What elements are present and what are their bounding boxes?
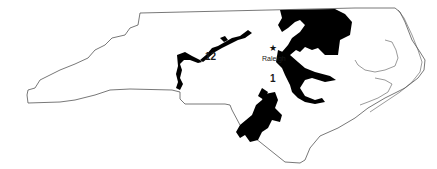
district-1-label: 1 — [270, 74, 276, 84]
north-carolina-map — [0, 0, 437, 169]
district-12-label: 12 — [205, 52, 216, 62]
city-label-raleigh: Raleigh — [262, 55, 286, 62]
state-outline — [27, 8, 425, 163]
star-icon: ★ — [269, 44, 277, 53]
